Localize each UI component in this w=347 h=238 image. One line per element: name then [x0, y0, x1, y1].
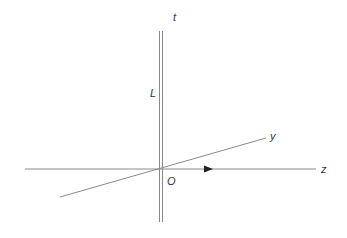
z-label: z [320, 163, 327, 175]
origin-label: O [167, 175, 176, 187]
axes-diagram: t L y z O [0, 0, 347, 238]
t-label: t [173, 11, 177, 23]
t-axis [160, 31, 163, 222]
arrow-icon [204, 166, 213, 173]
y-label: y [269, 130, 277, 142]
L-label: L [150, 87, 156, 99]
